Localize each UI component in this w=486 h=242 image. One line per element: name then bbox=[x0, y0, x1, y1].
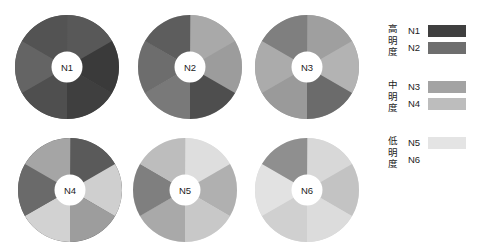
legend-group-title: 中 明 度 bbox=[386, 78, 399, 114]
donut-center-label: N6 bbox=[301, 185, 313, 196]
legend-item-n6[interactable]: N6 bbox=[408, 151, 466, 168]
legend-item-n4[interactable]: N4 bbox=[408, 95, 466, 112]
legend-rows: N5N6 bbox=[408, 134, 466, 168]
legend-color-swatch bbox=[428, 42, 466, 54]
legend-item-label: N3 bbox=[408, 81, 428, 92]
legend-color-swatch bbox=[428, 98, 466, 110]
legend-rows: N1N2 bbox=[408, 22, 466, 56]
donut-center-label: N4 bbox=[64, 185, 76, 196]
legend-item-label: N4 bbox=[408, 98, 428, 109]
donut-chart-n5: N5 bbox=[133, 138, 237, 242]
legend-group: 高 明 度N1N2 bbox=[386, 22, 466, 58]
legend-group-title: 高 明 度 bbox=[386, 22, 399, 58]
legend: 高 明 度N1N2中 明 度N3N4低 明 度N5N6 bbox=[386, 0, 486, 241]
donut-center-label: N1 bbox=[61, 62, 73, 73]
donut-center-label: N5 bbox=[179, 185, 191, 196]
legend-item-n1[interactable]: N1 bbox=[408, 22, 466, 39]
legend-group: 低 明 度N5N6 bbox=[386, 134, 466, 170]
donut-chart-n3: N3 bbox=[255, 15, 359, 119]
donut-center-label: N2 bbox=[184, 62, 196, 73]
donut-chart-n2: N2 bbox=[138, 15, 242, 119]
legend-item-label: N1 bbox=[408, 25, 428, 36]
donut-chart-n4: N4 bbox=[18, 138, 122, 242]
legend-group: 中 明 度N3N4 bbox=[386, 78, 466, 114]
legend-item-n2[interactable]: N2 bbox=[408, 39, 466, 56]
legend-group-title: 低 明 度 bbox=[386, 134, 399, 170]
donut-center-label: N3 bbox=[301, 62, 313, 73]
legend-item-label: N6 bbox=[408, 154, 428, 165]
legend-color-swatch bbox=[428, 25, 466, 37]
legend-rows: N3N4 bbox=[408, 78, 466, 112]
donut-chart-n1: N1 bbox=[15, 15, 119, 119]
legend-item-n3[interactable]: N3 bbox=[408, 78, 466, 95]
legend-item-label: N5 bbox=[408, 137, 428, 148]
legend-color-swatch bbox=[428, 137, 466, 149]
legend-color-swatch bbox=[428, 154, 466, 166]
donut-chart-grid: N1N2N3N4N5N6 bbox=[0, 0, 380, 241]
legend-color-swatch bbox=[428, 81, 466, 93]
legend-item-n5[interactable]: N5 bbox=[408, 134, 466, 151]
legend-item-label: N2 bbox=[408, 42, 428, 53]
donut-chart-n6: N6 bbox=[255, 138, 359, 242]
